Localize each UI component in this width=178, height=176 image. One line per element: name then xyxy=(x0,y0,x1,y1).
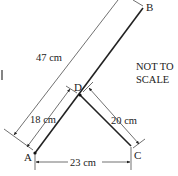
label-point-B: B xyxy=(146,1,153,13)
label-dim-AB: 47 cm xyxy=(36,52,62,63)
segment-AB xyxy=(35,8,143,153)
point-A xyxy=(33,151,36,154)
label-point-D: D xyxy=(74,81,82,93)
label-dim-DC: 20 cm xyxy=(111,115,137,126)
note-not-to-scale-line2: SCALE xyxy=(136,74,169,85)
label-dim-AD: 18 cm xyxy=(30,114,56,125)
label-point-C: C xyxy=(134,149,141,161)
ext-line-B-47 xyxy=(133,0,143,6)
diagram-canvas: A B C D 47 cm 18 cm 20 cm 23 cm NOT TO S… xyxy=(0,0,178,176)
ext-line-A-47 xyxy=(4,129,33,150)
label-dim-AC: 23 cm xyxy=(70,157,96,168)
point-D xyxy=(78,93,81,96)
note-not-to-scale-line1: NOT TO xyxy=(136,61,174,72)
label-point-A: A xyxy=(24,151,32,163)
geometry-figure: A B C D 47 cm 18 cm 20 cm 23 cm NOT TO S… xyxy=(0,0,178,176)
